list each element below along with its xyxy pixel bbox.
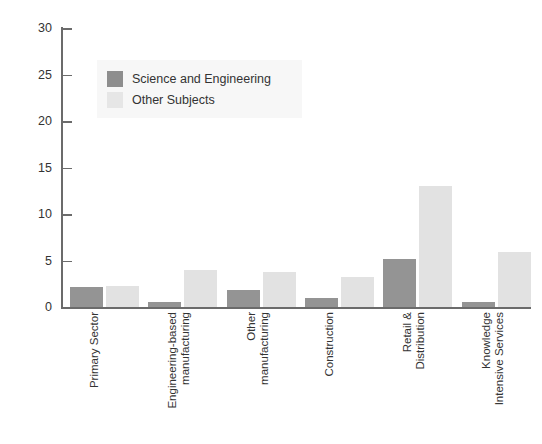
- x-axis-label-line: Engineering-based: [166, 312, 179, 442]
- legend-item-science-and-engineering: Science and Engineering: [107, 68, 292, 89]
- x-axis-label: Primary Sector: [88, 312, 101, 442]
- bar-group: [305, 277, 374, 307]
- x-axis-label-line: manufacturing: [257, 312, 270, 442]
- legend-swatch-icon-science-and-engineering: [107, 71, 123, 87]
- x-axis-label-line: Other: [245, 312, 258, 442]
- y-axis-tick-label: 5: [14, 255, 52, 268]
- bar-group: [148, 270, 217, 307]
- legend-label-science-and-engineering: Science and Engineering: [132, 72, 271, 86]
- x-axis-label-line: Primary Sector: [88, 312, 101, 442]
- x-axis-label-line: Intensive Services: [492, 312, 505, 442]
- bar: [305, 298, 338, 307]
- chart-legend: Science and Engineering Other Subjects: [97, 60, 302, 118]
- y-axis-tick-label: 0: [14, 301, 52, 314]
- x-axis-label-line: Retail &: [401, 312, 414, 442]
- bar: [148, 302, 181, 307]
- x-axis-label-line: Knowledge: [480, 312, 493, 442]
- bar-group: [383, 186, 452, 307]
- bar: [498, 252, 531, 307]
- bar-group: [462, 252, 531, 307]
- bar-group: [70, 286, 139, 307]
- x-axis-label: KnowledgeIntensive Services: [480, 312, 505, 442]
- legend-swatch-icon-other-subjects: [107, 92, 123, 108]
- y-axis-tick-label: 20: [14, 115, 52, 128]
- bar: [383, 259, 416, 307]
- y-axis-tick-label: 15: [14, 162, 52, 175]
- legend-label-other-subjects: Other Subjects: [132, 93, 215, 107]
- x-axis-label: Retail &Distribution: [401, 312, 426, 442]
- x-axis-label: Construction: [323, 312, 336, 442]
- bar: [184, 270, 217, 307]
- bar: [70, 287, 103, 307]
- x-axis-label-line: Distribution: [414, 312, 427, 442]
- bar: [462, 302, 495, 307]
- bar: [341, 277, 374, 307]
- bar: [263, 272, 296, 307]
- x-axis-label-line: Construction: [323, 312, 336, 442]
- y-axis-tick-label: 25: [14, 69, 52, 82]
- y-axis-tick-label: 30: [14, 22, 52, 35]
- legend-item-other-subjects: Other Subjects: [107, 89, 292, 110]
- x-axis-label: Othermanufacturing: [245, 312, 270, 442]
- bar-group: [227, 272, 296, 307]
- x-axis-label-line: manufacturing: [179, 312, 192, 442]
- bar: [227, 290, 260, 307]
- bar: [106, 286, 139, 307]
- x-axis-label: Engineering-basedmanufacturing: [166, 312, 191, 442]
- x-axis-line: [61, 307, 531, 309]
- bar-chart: 051015202530 Science and Engineering Oth…: [0, 0, 542, 444]
- y-axis-tick-label: 10: [14, 208, 52, 221]
- x-axis-labels: Primary SectorEngineering-basedmanufactu…: [62, 312, 532, 444]
- bar: [419, 186, 452, 307]
